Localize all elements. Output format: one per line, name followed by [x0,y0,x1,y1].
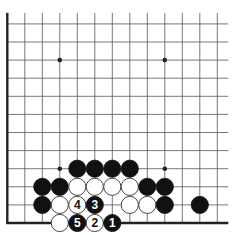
stone-disc [104,160,121,177]
stone-disc [139,178,156,195]
stone-disc [69,178,86,195]
black-stone [191,196,208,213]
black-stone [34,196,51,213]
stone-disc [121,178,138,195]
white-stone [69,178,86,195]
stone-disc [51,214,68,231]
white-stone [121,178,138,195]
stone-disc [121,196,138,213]
black-stone [156,178,173,195]
white-stone-4: 4 [69,196,86,213]
star-point [58,166,63,171]
move-number-label: 4 [74,198,81,212]
stone-disc [191,196,208,213]
white-stone [104,178,121,195]
black-stone-1: 1 [104,214,121,231]
star-point [58,58,63,63]
stone-disc [34,178,51,195]
stone-disc [86,178,103,195]
move-number-label: 1 [109,216,116,230]
black-stone [139,178,156,195]
white-stone [51,196,68,213]
go-board-svg: 43521 [0,0,234,240]
black-stone [34,178,51,195]
black-stone [51,178,68,195]
stone-disc [86,160,103,177]
go-board-diagram: 43521 [0,0,234,240]
black-stone-3: 3 [86,196,103,213]
black-stone [69,160,86,177]
move-number-label: 5 [74,216,81,230]
black-stone [104,160,121,177]
move-number-label: 2 [91,216,98,230]
white-stone-2: 2 [86,214,103,231]
stone-disc [156,178,173,195]
white-stone [121,196,138,213]
stone-disc [121,160,138,177]
black-stone [86,160,103,177]
white-stone [51,214,68,231]
star-point [163,166,168,171]
stone-disc [69,160,86,177]
stone-disc [139,196,156,213]
stone-disc [51,178,68,195]
stone-disc [156,196,173,213]
black-stone-5: 5 [69,214,86,231]
white-stone [86,178,103,195]
stone-disc [34,196,51,213]
star-point [163,58,168,63]
black-stone [156,196,173,213]
stone-disc [51,196,68,213]
move-number-label: 3 [91,198,98,212]
white-stone [139,196,156,213]
black-stone [121,160,138,177]
stone-disc [104,178,121,195]
